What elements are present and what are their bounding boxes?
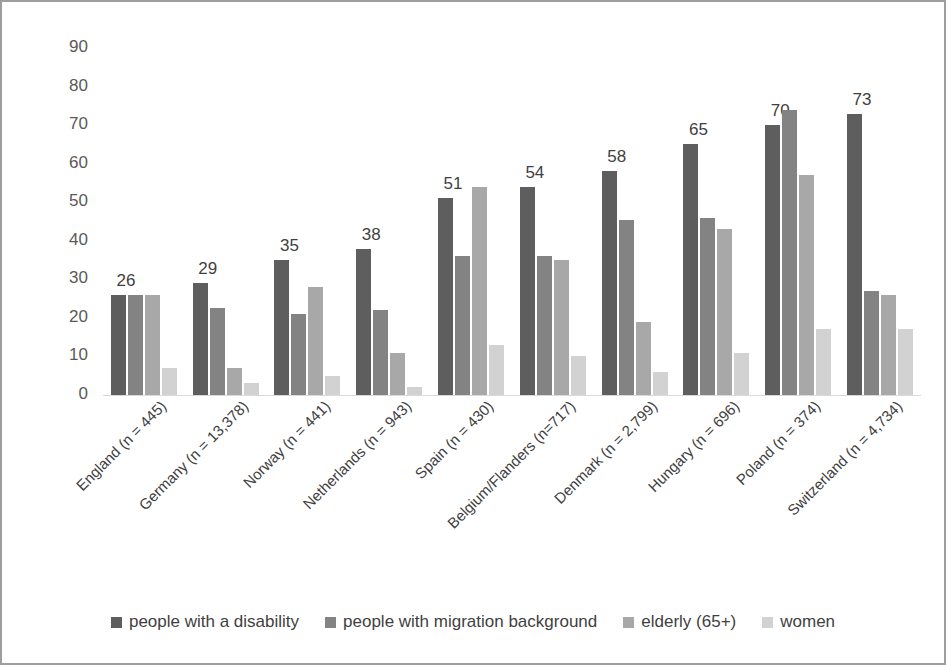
bar-fill: [864, 291, 879, 395]
bar-fill: [193, 283, 208, 395]
bar-fill: [636, 322, 651, 395]
bar[interactable]: [455, 48, 470, 395]
bar[interactable]: [308, 48, 323, 395]
bar[interactable]: 51: [438, 48, 453, 395]
bar[interactable]: [782, 48, 797, 395]
y-axis-tick-label: 30: [69, 269, 88, 286]
y-axis-tick-label: 10: [69, 346, 88, 363]
bar-fill: [472, 187, 487, 395]
bar[interactable]: [571, 48, 586, 395]
legend-item[interactable]: people with migration background: [325, 612, 597, 632]
bar[interactable]: [244, 48, 259, 395]
bar-fill: [816, 329, 831, 395]
bar-fill: [700, 218, 715, 395]
bar-fill: [683, 144, 698, 395]
bar-fill: [619, 220, 634, 395]
bar[interactable]: 70: [765, 48, 780, 395]
bar-fill: [554, 260, 569, 395]
y-axis-tick-label: 70: [69, 115, 88, 132]
x-axis-label: Hungary (n = 696): [645, 398, 742, 495]
y-axis-tick-label: 40: [69, 231, 88, 248]
bar[interactable]: [472, 48, 487, 395]
bar[interactable]: [325, 48, 340, 395]
y-axis-tick-label: 60: [69, 154, 88, 171]
bar-fill: [765, 125, 780, 395]
bar[interactable]: [210, 48, 225, 395]
plot-area: 26293538515458657073: [103, 48, 921, 395]
x-axis-label: England (n = 445): [73, 398, 169, 494]
bar-fill: [210, 308, 225, 395]
bar-group: 29: [185, 48, 267, 395]
bar-fill: [438, 198, 453, 395]
bar[interactable]: 54: [520, 48, 535, 395]
y-axis-tick-label: 90: [69, 38, 88, 55]
bar-fill: [799, 175, 814, 395]
legend-item[interactable]: people with a disability: [111, 612, 299, 632]
x-axis-label: Norway (n = 441): [240, 398, 333, 491]
bar[interactable]: 58: [602, 48, 617, 395]
bar-fill: [455, 256, 470, 395]
bar[interactable]: [407, 48, 422, 395]
bar-fill: [227, 368, 242, 395]
bar[interactable]: [864, 48, 879, 395]
bar-fill: [653, 372, 668, 395]
bar[interactable]: 65: [683, 48, 698, 395]
legend-label: people with a disability: [129, 612, 299, 632]
bar[interactable]: [898, 48, 913, 395]
bar[interactable]: [799, 48, 814, 395]
legend-item[interactable]: elderly (65+): [623, 612, 736, 632]
bar-fill: [898, 329, 913, 395]
bar[interactable]: [816, 48, 831, 395]
bar[interactable]: [489, 48, 504, 395]
y-axis-tick-label: 50: [69, 192, 88, 209]
bar[interactable]: [390, 48, 405, 395]
bar-fill: [145, 295, 160, 395]
bar[interactable]: 35: [274, 48, 289, 395]
bar-fill: [537, 256, 552, 395]
legend-label: women: [780, 612, 835, 632]
bar-chart: 9080706050403020100 26293538515458657073…: [0, 0, 946, 665]
bar-fill: [520, 187, 535, 395]
legend-swatch-icon: [111, 617, 122, 628]
bar[interactable]: [636, 48, 651, 395]
bar-fill: [111, 295, 126, 395]
bar-fill: [407, 387, 422, 395]
bar-group: 26: [103, 48, 185, 395]
bar[interactable]: [373, 48, 388, 395]
bar[interactable]: 26: [111, 48, 126, 395]
bar-fill: [274, 260, 289, 395]
x-axis-label: Poland (n = 374): [734, 398, 824, 488]
bar[interactable]: [734, 48, 749, 395]
bar[interactable]: [717, 48, 732, 395]
bar-group: 35: [267, 48, 349, 395]
bar-fill: [571, 356, 586, 395]
chart-border-top: [0, 0, 946, 2]
bar[interactable]: [554, 48, 569, 395]
y-axis-tick-label: 80: [69, 77, 88, 94]
bar-fill: [717, 229, 732, 395]
legend-swatch-icon: [762, 617, 773, 628]
bar-fill: [325, 376, 340, 395]
bar[interactable]: [619, 48, 634, 395]
bar[interactable]: 29: [193, 48, 208, 395]
bar[interactable]: [881, 48, 896, 395]
bar-fill: [291, 314, 306, 395]
chart-legend: people with a disabilitypeople with migr…: [0, 612, 946, 632]
bar-group: 51: [430, 48, 512, 395]
bar[interactable]: [537, 48, 552, 395]
bar[interactable]: [162, 48, 177, 395]
bar[interactable]: [145, 48, 160, 395]
bar-group: 58: [594, 48, 676, 395]
bar-group: 65: [676, 48, 758, 395]
bar-group: 73: [839, 48, 921, 395]
bar[interactable]: [653, 48, 668, 395]
bar[interactable]: [227, 48, 242, 395]
legend-item[interactable]: women: [762, 612, 835, 632]
bar-group: 70: [757, 48, 839, 395]
bar[interactable]: 73: [847, 48, 862, 395]
bar[interactable]: [291, 48, 306, 395]
bar[interactable]: [700, 48, 715, 395]
bar[interactable]: 38: [356, 48, 371, 395]
bar-fill: [489, 345, 504, 395]
bar[interactable]: [128, 48, 143, 395]
